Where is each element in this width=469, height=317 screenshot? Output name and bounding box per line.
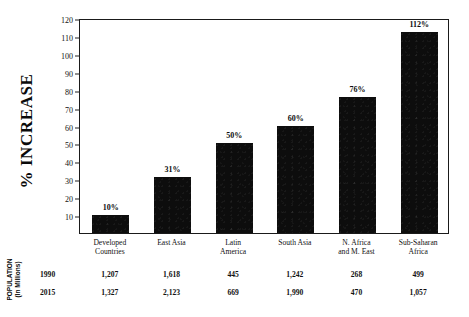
x-axis-category-label: East Asia (141, 238, 203, 247)
table-row-year: 2015 (40, 288, 76, 297)
table-cell: 1,057 (387, 288, 449, 297)
table-row-year: 1990 (40, 270, 76, 279)
table-cell: 1,618 (141, 270, 203, 279)
bar: 60% (277, 126, 314, 234)
category-label-line2: America (202, 247, 264, 256)
table-cell: 669 (202, 288, 264, 297)
table-cell: 499 (387, 270, 449, 279)
y-axis-tick-mark (75, 163, 80, 164)
table-cell: 1,207 (79, 270, 141, 279)
chart-plot-area: 12011010090807060504030201010%31%50%60%7… (79, 19, 449, 234)
table-cell: 445 (202, 270, 264, 279)
table-cell: 470 (326, 288, 388, 297)
bar-value-label: 10% (103, 203, 119, 212)
bar: 10% (92, 215, 129, 233)
y-axis-tick-mark (75, 37, 80, 38)
bar-value-label: 60% (288, 114, 304, 123)
x-axis-category-label: Sub-SaharanAfrica (387, 238, 449, 256)
x-axis-category-label: South Asia (264, 238, 326, 247)
category-label-line2: Africa (387, 247, 449, 256)
bar: 31% (154, 177, 191, 233)
bar-value-label: 31% (165, 165, 181, 174)
x-axis-category-label: N. Africaand M. East (326, 238, 388, 256)
bar-value-label: 112% (409, 20, 429, 29)
bar: 76% (339, 97, 376, 233)
x-axis-category-label: DevelopedCountries (79, 238, 141, 256)
y-axis-tick-mark (75, 20, 80, 21)
table-cell: 1,242 (264, 270, 326, 279)
y-axis-tick-mark (75, 73, 80, 74)
y-axis-tick-mark (75, 91, 80, 92)
y-axis-tick-mark (75, 145, 80, 146)
table-cell: 2,123 (141, 288, 203, 297)
y-axis-tick-mark (75, 127, 80, 128)
population-title-line2: (In Millions) (13, 258, 21, 300)
table-cell: 1,990 (264, 288, 326, 297)
y-axis-tick-mark (75, 181, 80, 182)
bar: 50% (216, 143, 253, 233)
y-axis-tick-mark (75, 55, 80, 56)
table-cell: 1,327 (79, 288, 141, 297)
population-table-title: POPULATION (In Millions) (0, 252, 26, 306)
bar: 112% (401, 32, 438, 233)
category-label-line1: East Asia (141, 238, 203, 247)
table-cell: 268 (326, 270, 388, 279)
bar-value-label: 76% (350, 85, 366, 94)
category-label-line2: Countries (79, 247, 141, 256)
population-title-line1: POPULATION (6, 258, 14, 300)
category-label-line1: Latin (202, 238, 264, 247)
y-axis-tick-mark (75, 217, 80, 218)
x-axis-category-label: LatinAmerica (202, 238, 264, 256)
y-axis-tick-mark (75, 199, 80, 200)
category-label-line2: and M. East (326, 247, 388, 256)
y-axis-title-label: % INCREASE (17, 73, 37, 188)
y-axis-title: % INCREASE (12, 36, 42, 226)
category-label-line1: N. Africa (326, 238, 388, 247)
y-axis-tick-mark (75, 109, 80, 110)
category-label-line1: South Asia (264, 238, 326, 247)
bar-value-label: 50% (226, 131, 242, 140)
category-label-line1: Developed (79, 238, 141, 247)
category-label-line1: Sub-Saharan (387, 238, 449, 247)
